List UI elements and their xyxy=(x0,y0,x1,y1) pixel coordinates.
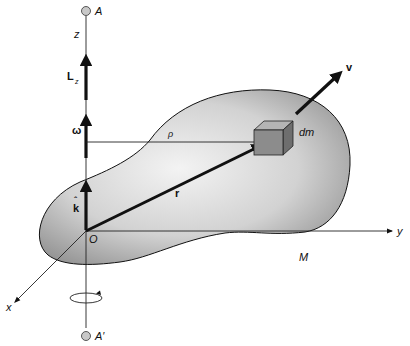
label-z-axis: z xyxy=(73,28,80,40)
pivot-point-a xyxy=(82,7,91,16)
label-a-prime: A′ xyxy=(94,330,105,342)
pivot-point-a-prime xyxy=(82,332,91,341)
label-angular-momentum-subscript: z xyxy=(74,78,79,85)
mass-element-cube xyxy=(254,121,293,155)
label-origin: O xyxy=(89,233,98,245)
label-mass-element: dm xyxy=(299,126,314,138)
label-a: A xyxy=(94,5,102,17)
label-x-axis: x xyxy=(5,301,12,313)
label-angular-velocity: ω xyxy=(72,124,81,136)
rigid-body-diagram: A z A′ L z ω ρ k ˆ y x O r dm v M xyxy=(0,0,410,346)
label-y-axis: y xyxy=(396,225,404,237)
label-perpendicular-distance: ρ xyxy=(167,129,173,139)
label-velocity: v xyxy=(346,61,353,73)
label-angular-momentum: L xyxy=(67,70,74,82)
label-body-mass: M xyxy=(299,251,309,263)
label-position-vector: r xyxy=(175,187,180,199)
